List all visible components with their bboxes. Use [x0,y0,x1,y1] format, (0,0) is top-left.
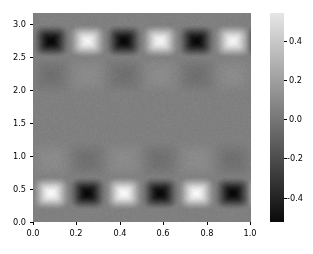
y-tick-label: 2.5 [4,53,26,61]
x-tick-label: 0.2 [65,229,87,237]
colorbar-tick-label: 0.4 [289,37,302,45]
x-tick-mark [76,222,77,225]
y-tick-mark [30,24,33,25]
colorbar-tick-mark [284,41,287,42]
y-tick-mark [30,189,33,190]
x-tick-label: 0.8 [196,229,218,237]
y-tick-label: 0.0 [4,218,26,226]
colorbar-tick-mark [284,80,287,81]
x-tick-mark [33,222,34,225]
y-tick-mark [30,90,33,91]
colorbar-tick-label: 0.0 [289,115,302,123]
x-tick-mark [163,222,164,225]
x-tick-mark [250,222,251,225]
y-tick-label: 1.0 [4,152,26,160]
x-tick-mark [120,222,121,225]
colorbar-tick-label: -0.2 [287,154,303,162]
x-tick-label: 1.0 [239,229,261,237]
colorbar-tick-mark [284,119,287,120]
x-tick-mark [207,222,208,225]
x-tick-label: 0.6 [152,229,174,237]
figure: 3.0 2.5 2.0 1.5 1.0 0.5 0.0 0.0 0.2 0.4 … [0,0,313,254]
y-tick-mark [30,156,33,157]
colorbar-tick-label: 0.2 [289,76,302,84]
y-tick-mark [30,57,33,58]
heatmap-axes [33,13,251,222]
y-tick-label: 0.5 [4,185,26,193]
x-tick-label: 0.0 [22,229,44,237]
y-tick-label: 2.0 [4,86,26,94]
colorbar-tick-label: -0.4 [287,194,303,202]
y-tick-mark [30,123,33,124]
y-tick-label: 3.0 [4,20,26,28]
colorbar-frame [270,13,284,222]
x-tick-label: 0.4 [109,229,131,237]
heatmap-image [33,13,251,222]
y-tick-label: 1.5 [4,119,26,127]
